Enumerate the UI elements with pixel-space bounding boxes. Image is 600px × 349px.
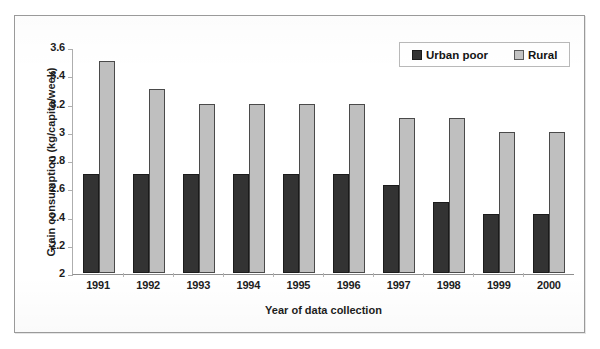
x-axis-tick-mark [173, 273, 174, 277]
y-axis-tick-label: 3 [59, 126, 65, 138]
x-axis-tick-mark [523, 273, 524, 277]
bar-group [224, 49, 274, 273]
x-axis-tick-mark [123, 273, 124, 277]
y-axis-tick-label: 2.8 [50, 154, 65, 166]
bars-layer [74, 49, 574, 273]
legend-swatch-icon [412, 50, 422, 60]
bar-group [474, 49, 524, 273]
legend-item-rural[interactable]: Rural [514, 49, 557, 61]
bar-urban-poor[interactable] [83, 174, 99, 273]
bar-urban-poor[interactable] [433, 202, 449, 273]
y-axis-tick-label: 3.2 [50, 98, 65, 110]
x-axis-tick-label: 1998 [424, 279, 474, 291]
y-axis-tick-mark [68, 134, 73, 135]
bar-rural[interactable] [449, 118, 465, 273]
legend-label: Urban poor [426, 49, 488, 61]
x-axis-tick-labels: 1991199219931994199519961997199819992000 [73, 279, 574, 291]
x-axis-tick-label: 1995 [273, 279, 323, 291]
x-axis-tick-label: 2000 [524, 279, 574, 291]
bar-rural[interactable] [199, 104, 215, 274]
legend-label: Rural [528, 49, 557, 61]
x-axis-tick-label: 1994 [223, 279, 273, 291]
y-axis-tick-mark [68, 219, 73, 220]
bar-rural[interactable] [149, 89, 165, 273]
x-axis-tick-label: 1992 [123, 279, 173, 291]
bar-urban-poor[interactable] [233, 174, 249, 273]
y-axis-tick-label: 3.4 [50, 69, 65, 81]
bar-urban-poor[interactable] [533, 214, 549, 273]
y-axis-tick-mark [68, 275, 73, 276]
bar-group [524, 49, 574, 273]
x-axis-title: Year of data collection [73, 304, 574, 316]
y-axis-tick-label: 2.2 [50, 239, 65, 251]
bar-group [74, 49, 124, 273]
x-axis-tick-mark [473, 273, 474, 277]
bar-group [424, 49, 474, 273]
bar-urban-poor[interactable] [333, 174, 349, 273]
x-axis-tick-mark [373, 273, 374, 277]
y-axis-tick-mark [68, 190, 73, 191]
x-axis-tick-mark [223, 273, 224, 277]
y-axis-tick-mark [68, 247, 73, 248]
bar-urban-poor[interactable] [283, 174, 299, 273]
x-axis-tick-mark [323, 273, 324, 277]
x-axis-tick-label: 1991 [73, 279, 123, 291]
y-axis-tick-label: 2.6 [50, 182, 65, 194]
legend-item-urban[interactable]: Urban poor [412, 49, 488, 61]
bar-rural[interactable] [249, 104, 265, 274]
x-axis-tick-label: 1993 [173, 279, 223, 291]
bar-urban-poor[interactable] [483, 214, 499, 273]
legend-swatch-icon [514, 50, 524, 60]
bar-urban-poor[interactable] [133, 174, 149, 273]
bar-group [324, 49, 374, 273]
plot-area: 3.63.43.232.82.62.42.22 [72, 49, 574, 275]
figure-frame: Grain consumption (kg/capita/week) 3.63.… [14, 15, 585, 333]
y-axis-tick-label: 2 [59, 267, 65, 279]
bar-rural[interactable] [499, 132, 515, 273]
y-axis-tick-label: 3.6 [50, 41, 65, 53]
bar-group [274, 49, 324, 273]
x-axis-tick-label: 1997 [374, 279, 424, 291]
bar-rural[interactable] [349, 104, 365, 274]
bar-urban-poor[interactable] [183, 174, 199, 273]
bar-rural[interactable] [99, 61, 115, 273]
x-axis-tick-mark [273, 273, 274, 277]
y-axis-tick-mark [68, 77, 73, 78]
bar-group [124, 49, 174, 273]
bar-rural[interactable] [299, 104, 315, 274]
y-axis-tick-mark [68, 162, 73, 163]
bar-group [374, 49, 424, 273]
x-axis-tick-label: 1996 [323, 279, 373, 291]
bar-group [174, 49, 224, 273]
x-axis-tick-mark [423, 273, 424, 277]
y-axis-tick-mark [68, 106, 73, 107]
x-axis-tick-label: 1999 [474, 279, 524, 291]
chart-legend: Urban poorRural [399, 42, 570, 67]
bar-rural[interactable] [549, 132, 565, 273]
bar-urban-poor[interactable] [383, 185, 399, 273]
bar-rural[interactable] [399, 118, 415, 273]
y-axis-tick-mark [68, 49, 73, 50]
y-axis-tick-label: 2.4 [50, 211, 65, 223]
